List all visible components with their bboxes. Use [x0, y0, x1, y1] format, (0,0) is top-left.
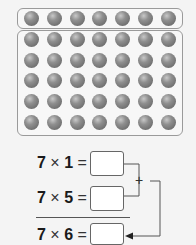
- top-row-dot: [47, 11, 62, 26]
- arrow-head-icon: [125, 233, 133, 240]
- bottom-block-dot: [138, 115, 153, 130]
- bottom-block-dot: [115, 115, 130, 130]
- bottom-block-dot: [47, 94, 62, 109]
- bottom-block-dot: [161, 53, 176, 68]
- bottom-block-dot: [70, 73, 85, 88]
- bottom-block-dot: [24, 115, 39, 130]
- bottom-block-dot: [70, 94, 85, 109]
- bottom-block-dot: [24, 94, 39, 109]
- bottom-block-dot: [138, 53, 153, 68]
- bottom-block-dot: [47, 53, 62, 68]
- bottom-block-dot: [161, 32, 176, 47]
- bottom-block-dot: [92, 53, 107, 68]
- top-row-dot: [70, 11, 85, 26]
- bottom-block-dot: [138, 32, 153, 47]
- bottom-block-dot: [24, 53, 39, 68]
- bottom-block-dot: [47, 32, 62, 47]
- bottom-block-dot: [24, 32, 39, 47]
- bottom-block-dot: [47, 115, 62, 130]
- bottom-block-dot: [70, 115, 85, 130]
- plus-sign: +: [135, 173, 143, 187]
- top-row-dot: [138, 11, 153, 26]
- bottom-block-dot: [161, 94, 176, 109]
- bottom-block-dot: [70, 53, 85, 68]
- top-row-dot: [161, 11, 176, 26]
- bottom-block-dot: [161, 115, 176, 130]
- bottom-block-dot: [138, 94, 153, 109]
- bottom-block-dot: [70, 32, 85, 47]
- top-row-dot: [24, 11, 39, 26]
- bottom-block-dot: [115, 53, 130, 68]
- arrow-line: [132, 181, 160, 236]
